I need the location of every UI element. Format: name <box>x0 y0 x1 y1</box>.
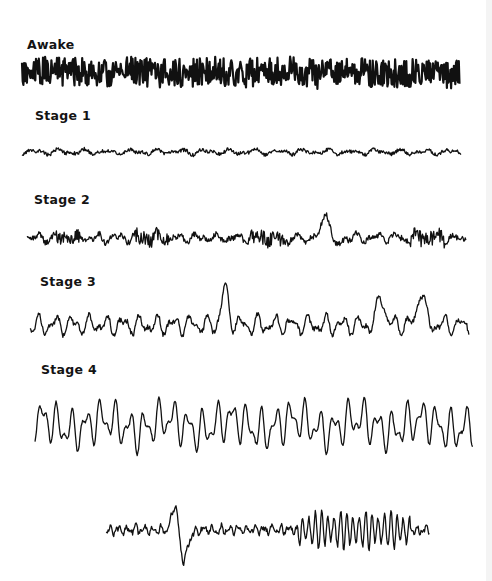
trace-stage-2 <box>27 188 470 288</box>
eeg-sleep-stages-figure: Awake Stage 1 Stage 2 Stage 3 Stage 4 <box>0 0 492 581</box>
trace-stage-3 <box>30 275 473 375</box>
trace-stage-4 <box>35 375 477 475</box>
trace-transition <box>106 480 434 580</box>
trace-stage-1 <box>22 102 465 202</box>
page-edge <box>486 0 492 581</box>
